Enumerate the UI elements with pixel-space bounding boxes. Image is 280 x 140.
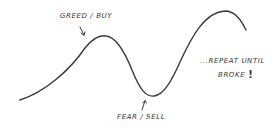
fear-arrow-icon [142, 101, 147, 111]
repeat-until-label: ...REPEAT UNTIL [200, 57, 265, 65]
price-cycle-curve [20, 11, 246, 100]
greed-arrow-icon [80, 27, 85, 36]
broke-label: BROKE! [218, 68, 253, 79]
exclamation-mark: ! [248, 69, 253, 80]
greed-buy-label: GREED / BUY [60, 12, 112, 20]
broke-text: BROKE [218, 71, 245, 79]
fear-sell-label: FEAR / SELL [117, 113, 165, 121]
